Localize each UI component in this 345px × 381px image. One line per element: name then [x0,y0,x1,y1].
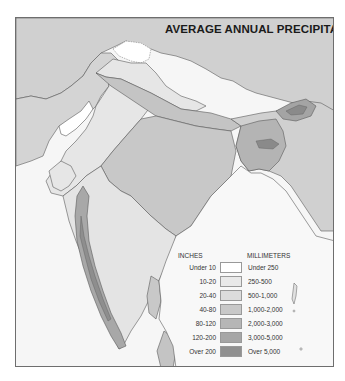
legend-mm-label: 3,000-5,000 [248,334,283,341]
legend-row: 20-40 500-1,000 [169,290,309,301]
legend-swatch [220,304,242,315]
legend-mm-label: 2,000-3,000 [248,320,283,327]
legend-row: 40-80 1,000-2,000 [169,304,309,315]
legend-inches-label: 20-40 [199,292,216,299]
legend-swatch [220,290,242,301]
legend-mm-label: 250-500 [248,278,272,285]
legend-mm-label: Under 250 [248,264,278,271]
legend-row: 10-20 250-500 [169,276,309,287]
legend-swatch [220,332,242,343]
legend-swatch [220,318,242,329]
legend-swatch [220,262,242,273]
legend-inches-label: Under 10 [189,264,216,271]
legend-mm-label: Over 5,000 [248,348,280,355]
legend-mm-label: 500-1,000 [248,292,277,299]
legend-inches-label: 80-120 [196,320,216,327]
legend-inches-label: 120-200 [192,334,216,341]
legend-swatch [220,346,242,357]
legend-row: 120-200 3,000-5,000 [169,332,309,343]
legend-row: Under 10 Under 250 [169,262,309,273]
legend-inches-label: 10-20 [199,278,216,285]
legend-header-millimeters: MILLIMETERS [247,252,290,259]
legend-header-inches: INCHES [178,252,203,259]
map-title: AVERAGE ANNUAL PRECIPITATION [165,23,334,35]
legend-row: 80-120 2,000-3,000 [169,318,309,329]
legend-inches-label: Over 200 [189,348,216,355]
legend-mm-label: 1,000-2,000 [248,306,283,313]
legend-swatch [220,276,242,287]
map-frame: AVERAGE ANNUAL PRECIPITATION INCHES MILL… [15,17,334,367]
legend-inches-label: 40-80 [199,306,216,313]
legend-row: Over 200 Over 5,000 [169,346,309,357]
